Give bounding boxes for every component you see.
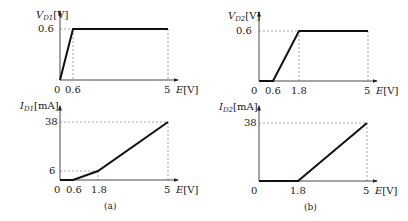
x-tick: 0 xyxy=(251,185,257,196)
x-tick: 0.6 xyxy=(265,85,281,96)
x-tick: 5 xyxy=(363,185,369,196)
data-line xyxy=(259,31,368,81)
data-line xyxy=(60,29,168,80)
x-tick: 5 xyxy=(164,184,170,195)
x-tick: 1.8 xyxy=(291,85,307,96)
x-tick: 0 xyxy=(251,85,257,96)
y-tick: 0.6 xyxy=(38,23,54,34)
y-tick: 6 xyxy=(49,165,55,176)
caption-b: (b) xyxy=(304,202,317,212)
x-axis-label: E[V] xyxy=(175,84,198,95)
x-axis-label: E[V] xyxy=(175,184,198,195)
y-axis-label: VD2[V] xyxy=(228,10,260,23)
x-tick: 1.8 xyxy=(91,184,107,195)
x-axis-label: E[V] xyxy=(375,85,398,96)
y-tick: 38 xyxy=(45,116,58,127)
chart-b-bottom: ID2[mA] 38 0 1.8 5 E[V] (b) xyxy=(218,101,397,212)
diode-characteristics-figure: VD1[V] 0.6 0 0.6 5 E[V] ID1[mA] 38 6 0 0… xyxy=(0,0,408,221)
y-tick: 0.6 xyxy=(236,25,252,36)
chart-a-top: VD1[V] 0.6 0 0.6 5 E[V] xyxy=(36,9,198,95)
x-tick: 1.8 xyxy=(290,185,306,196)
y-tick: 38 xyxy=(244,117,257,128)
y-axis-label: ID1[mA] xyxy=(19,100,59,113)
x-tick: 0.6 xyxy=(65,84,81,95)
x-tick: 0 xyxy=(54,84,60,95)
x-tick: 5 xyxy=(364,85,370,96)
y-axis-label: VD1[V] xyxy=(36,9,68,22)
chart-b-top: VD2[V] 0.6 0 0.6 1.8 5 E[V] xyxy=(228,10,398,96)
x-axis-label: E[V] xyxy=(374,185,397,196)
x-tick: 5 xyxy=(164,84,170,95)
data-line xyxy=(259,123,367,181)
chart-a-bottom: ID1[mA] 38 6 0 0.6 1.8 5 E[V] (a) xyxy=(19,100,198,211)
x-tick: 0.6 xyxy=(66,184,82,195)
caption-a: (a) xyxy=(104,201,116,211)
y-axis-label: ID2[mA] xyxy=(218,101,258,114)
x-tick: 0 xyxy=(54,184,60,195)
